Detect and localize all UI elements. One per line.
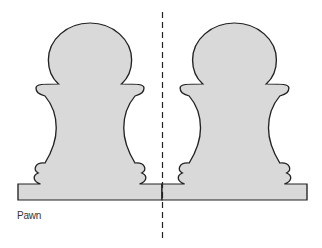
left-pawn <box>18 23 162 200</box>
figure-caption: Pawn <box>17 210 41 221</box>
pawn-symmetry-diagram <box>0 0 322 248</box>
right-pawn <box>162 23 307 200</box>
